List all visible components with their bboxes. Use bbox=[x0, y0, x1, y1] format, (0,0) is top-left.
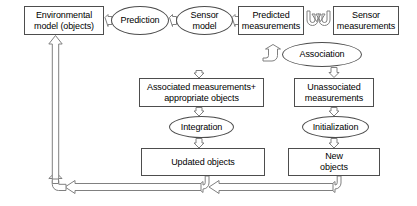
node-predicted-measurements[interactable]: Predicted measurements bbox=[238, 6, 304, 35]
edge-association-to-unassociated bbox=[329, 68, 339, 78]
edge-associated-to-integration bbox=[194, 108, 204, 117]
node-new-objects-label: New objects bbox=[318, 151, 350, 173]
node-sensor-measurements-label: Sensor measurements bbox=[335, 10, 397, 32]
edge-feedback-bus-right bbox=[209, 181, 333, 194]
node-associated-measurements-label: Associated measurements+ appropriate obj… bbox=[145, 82, 258, 104]
node-associated-measurements[interactable]: Associated measurements+ appropriate obj… bbox=[139, 78, 264, 107]
node-integration[interactable]: Integration bbox=[169, 116, 234, 138]
node-sensor-model[interactable]: Sensor model bbox=[176, 6, 233, 35]
node-predicted-measurements-label: Predicted measurements bbox=[240, 10, 302, 32]
node-association-label: Association bbox=[298, 49, 347, 60]
diagram-canvas: Environmental model (objects) Prediction… bbox=[0, 0, 417, 206]
edge-feedback-riser bbox=[49, 36, 62, 180]
node-environmental-model-label: Environmental model (objects) bbox=[32, 10, 96, 32]
edge-integration-to-updated bbox=[194, 139, 204, 149]
node-integration-label: Integration bbox=[179, 122, 224, 133]
node-new-objects[interactable]: New objects bbox=[288, 148, 380, 176]
node-environmental-model[interactable]: Environmental model (objects) bbox=[24, 6, 104, 35]
edge-unassociated-to-initialization bbox=[329, 108, 339, 117]
edge-feedback-bus-left bbox=[65, 181, 201, 194]
node-sensor-model-label: Sensor model bbox=[189, 10, 221, 32]
node-unassociated-measurements[interactable]: Unassociated measurements bbox=[294, 78, 374, 107]
node-updated-objects-label: Updated objects bbox=[169, 157, 237, 168]
edge-initialization-to-new bbox=[329, 139, 339, 149]
node-prediction-label: Prediction bbox=[118, 15, 161, 26]
node-updated-objects[interactable]: Updated objects bbox=[141, 148, 265, 176]
node-sensor-measurements[interactable]: Sensor measurements bbox=[333, 6, 399, 35]
node-prediction[interactable]: Prediction bbox=[111, 6, 169, 35]
node-association[interactable]: Association bbox=[282, 42, 362, 67]
node-initialization[interactable]: Initialization bbox=[302, 116, 369, 138]
node-unassociated-measurements-label: Unassociated measurements bbox=[303, 82, 365, 104]
edge-hook-into-association bbox=[263, 45, 281, 62]
edge-association-to-associated bbox=[194, 71, 204, 79]
node-initialization-label: Initialization bbox=[311, 122, 361, 133]
edge-sensor-meas-to-association bbox=[316, 11, 330, 26]
